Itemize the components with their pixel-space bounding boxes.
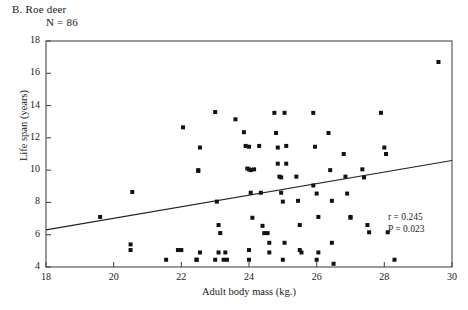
data-point: [349, 216, 353, 220]
data-point: [267, 250, 271, 254]
y-tick-label: 12: [14, 131, 40, 142]
data-point: [281, 258, 285, 262]
data-point: [274, 131, 278, 135]
data-point: [313, 145, 317, 149]
data-point: [315, 258, 319, 262]
data-point: [129, 248, 133, 252]
data-point: [436, 60, 440, 64]
data-point: [272, 111, 276, 115]
data-point: [217, 223, 221, 227]
data-point: [225, 258, 229, 262]
data-point: [316, 215, 320, 219]
data-point: [195, 258, 199, 262]
x-tick-label: 30: [439, 271, 465, 282]
data-point: [365, 223, 369, 227]
data-point: [217, 250, 221, 254]
data-point: [299, 250, 303, 254]
data-point: [198, 146, 202, 150]
data-point: [316, 250, 320, 254]
data-point: [242, 130, 246, 134]
data-point: [250, 216, 254, 220]
y-tick-label: 8: [14, 195, 40, 206]
data-point: [215, 200, 219, 204]
x-tick-label: 20: [101, 271, 127, 282]
data-point: [276, 146, 280, 150]
data-point: [384, 152, 388, 156]
x-tick-label: 24: [236, 271, 262, 282]
scatter-plot-canvas: [0, 0, 468, 310]
data-point: [266, 231, 270, 235]
data-point: [213, 258, 217, 262]
data-point: [223, 250, 227, 254]
y-tick-label: 18: [14, 34, 40, 45]
data-point: [296, 199, 300, 203]
data-point: [181, 125, 185, 129]
data-point: [362, 175, 366, 179]
y-tick-label: 10: [14, 163, 40, 174]
y-tick-label: 6: [14, 228, 40, 239]
data-point: [247, 258, 251, 262]
x-tick-label: 28: [371, 271, 397, 282]
data-point: [311, 111, 315, 115]
data-point: [283, 241, 287, 245]
data-point: [129, 242, 133, 246]
data-point: [284, 144, 288, 148]
data-point: [261, 224, 265, 228]
y-tick-label: 16: [14, 66, 40, 77]
data-point: [257, 144, 261, 148]
data-point: [298, 223, 302, 227]
data-point: [382, 146, 386, 150]
data-point: [130, 190, 134, 194]
data-point: [179, 248, 183, 252]
data-point: [379, 111, 383, 115]
x-tick-label: 22: [168, 271, 194, 282]
data-point: [330, 241, 334, 245]
data-point: [218, 231, 222, 235]
data-point: [279, 175, 283, 179]
data-point: [345, 192, 349, 196]
data-point: [392, 258, 396, 262]
x-tick-label: 18: [33, 271, 59, 282]
data-point: [198, 250, 202, 254]
x-tick-label: 26: [304, 271, 330, 282]
data-point: [279, 191, 283, 195]
data-point: [315, 192, 319, 196]
data-point: [367, 230, 371, 234]
data-point: [98, 215, 102, 219]
data-point: [332, 262, 336, 266]
data-point: [360, 167, 364, 171]
data-point: [281, 200, 285, 204]
p-value-label: P = 0.023: [388, 224, 424, 234]
data-point: [276, 162, 280, 166]
y-tick-label: 4: [14, 260, 40, 271]
data-point: [259, 191, 263, 195]
data-point: [327, 131, 331, 135]
data-point: [233, 117, 237, 121]
data-point: [328, 168, 332, 172]
data-point: [267, 241, 271, 245]
data-point: [164, 258, 168, 262]
data-point: [252, 167, 256, 171]
data-point: [196, 169, 200, 173]
data-point: [283, 111, 287, 115]
data-point: [247, 248, 251, 252]
data-point: [294, 175, 298, 179]
data-points: [98, 60, 440, 266]
figure-panel: B. Roe deer N = 86 Life span (years) Adu…: [0, 0, 468, 310]
data-point: [213, 110, 217, 114]
data-point: [249, 191, 253, 195]
data-point: [330, 199, 334, 203]
data-point: [247, 145, 251, 149]
y-tick-label: 14: [14, 99, 40, 110]
correlation-r-label: r = 0.245: [388, 212, 423, 222]
data-point: [311, 183, 315, 187]
data-point: [343, 175, 347, 179]
data-point: [284, 162, 288, 166]
data-point: [342, 152, 346, 156]
